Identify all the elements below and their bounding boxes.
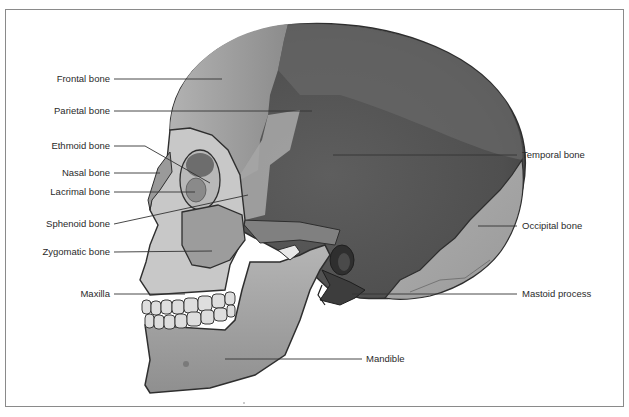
- stray-dot: [243, 402, 245, 404]
- label-mandible: Mandible: [366, 353, 405, 365]
- label-parietal-bone: Parietal bone: [30, 105, 110, 117]
- label-nasal-bone: Nasal bone: [30, 167, 110, 179]
- label-zygomatic-bone: Zygomatic bone: [20, 246, 110, 258]
- label-occipital-bone: Occipital bone: [522, 220, 582, 232]
- label-maxilla: Maxilla: [30, 288, 110, 300]
- face: [140, 128, 245, 295]
- label-ethmoid-bone: Ethmoid bone: [30, 140, 110, 152]
- label-lacrimal-bone: Lacrimal bone: [30, 186, 110, 198]
- label-temporal-bone: Temporal bone: [522, 149, 585, 161]
- skull-illustration: [0, 0, 629, 417]
- teeth: [142, 292, 235, 329]
- label-mastoid-process: Mastoid process: [522, 288, 591, 300]
- zygomatic-bone-region: [182, 205, 245, 268]
- label-frontal-bone: Frontal bone: [30, 73, 110, 85]
- label-sphenoid-bone: Sphenoid bone: [30, 218, 110, 230]
